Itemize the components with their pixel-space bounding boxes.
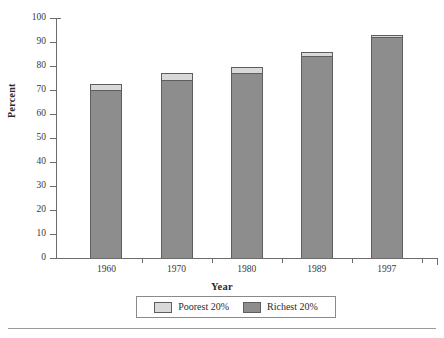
y-tick-label-40: 40 bbox=[20, 157, 46, 167]
x-tick-1997 bbox=[422, 258, 423, 263]
bar-1989[interactable] bbox=[301, 52, 333, 258]
bar-segment-richest-1989[interactable] bbox=[301, 56, 333, 258]
x-tick-label-1980: 1980 bbox=[224, 264, 270, 275]
x-tick-1980 bbox=[282, 258, 283, 263]
y-tick-label-90: 90 bbox=[20, 37, 46, 47]
y-tick-label-30: 30 bbox=[20, 181, 46, 191]
legend-item-richest[interactable]: Richest 20% bbox=[243, 302, 318, 313]
x-tick-1970 bbox=[212, 258, 213, 263]
y-tick-label-0: 0 bbox=[20, 253, 46, 263]
y-tick-label-60: 60 bbox=[20, 109, 46, 119]
bar-1970[interactable] bbox=[161, 73, 193, 258]
y-tick-label-10: 10 bbox=[20, 229, 46, 239]
plot-area bbox=[56, 18, 438, 258]
y-tick-label-70: 70 bbox=[20, 85, 46, 95]
chart-legend: Poorest 20% Richest 20% bbox=[136, 296, 336, 318]
bar-1960[interactable] bbox=[90, 84, 122, 258]
bar-segment-poorest-1970[interactable] bbox=[161, 73, 193, 80]
y-tick-label-50: 50 bbox=[20, 133, 46, 143]
bar-1980[interactable] bbox=[231, 67, 263, 258]
bar-segment-richest-1980[interactable] bbox=[231, 73, 263, 258]
bar-segment-richest-1997[interactable] bbox=[371, 37, 403, 258]
legend-label-poorest: Poorest 20% bbox=[178, 302, 229, 312]
x-tick-label-1970: 1970 bbox=[154, 264, 200, 275]
y-tick-0 bbox=[50, 258, 56, 259]
y-axis-title: Percent bbox=[6, 83, 17, 118]
y-tick-label-20: 20 bbox=[20, 205, 46, 215]
y-tick-label-80: 80 bbox=[20, 61, 46, 71]
legend-item-poorest[interactable]: Poorest 20% bbox=[154, 302, 229, 313]
x-axis-spine bbox=[56, 258, 438, 259]
bar-chart-figure: 0102030405060708090100 19601970198019891… bbox=[0, 0, 444, 338]
bar-1997[interactable] bbox=[371, 35, 403, 258]
x-axis-end-tick bbox=[437, 258, 438, 265]
x-tick-label-1960: 1960 bbox=[83, 264, 129, 275]
x-tick-1960 bbox=[142, 258, 143, 263]
x-axis-title: Year bbox=[0, 281, 444, 292]
y-tick-label-100: 100 bbox=[20, 13, 46, 23]
bar-segment-richest-1960[interactable] bbox=[90, 90, 122, 258]
bar-segment-richest-1970[interactable] bbox=[161, 80, 193, 258]
x-tick-1989 bbox=[352, 258, 353, 263]
footer-divider bbox=[8, 328, 436, 329]
x-tick-label-1989: 1989 bbox=[294, 264, 340, 275]
x-tick-label-1997: 1997 bbox=[364, 264, 410, 275]
legend-label-richest: Richest 20% bbox=[267, 302, 318, 312]
legend-swatch-richest-icon bbox=[243, 302, 261, 313]
legend-swatch-poorest-icon bbox=[154, 302, 172, 313]
